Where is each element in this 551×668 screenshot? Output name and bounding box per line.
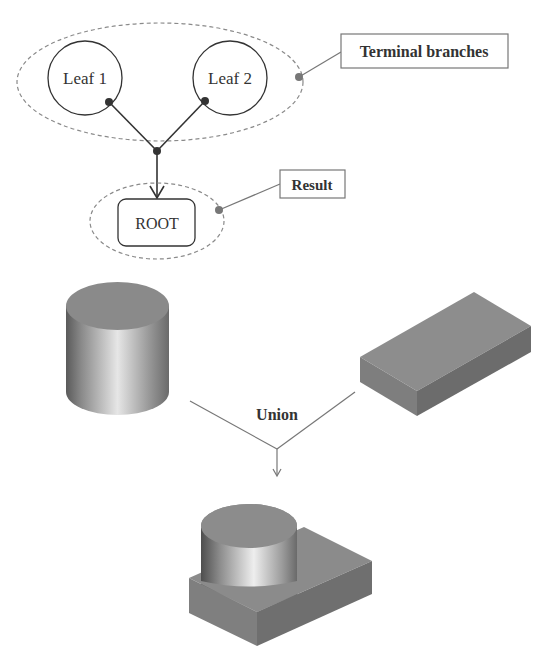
terminal-branches-label: Terminal branches (360, 43, 489, 60)
union-result-shape (189, 504, 372, 646)
union-connector: Union (190, 392, 355, 476)
leaf-2-label: Leaf 2 (208, 69, 252, 88)
result-leader (219, 184, 280, 210)
csg-tree-diagram: Leaf 1 Leaf 2 ROOT Terminal branches Res… (0, 0, 551, 668)
terminal-branches-leader (299, 52, 341, 77)
box-shape (360, 292, 531, 416)
root-label: ROOT (135, 215, 179, 232)
terminal-branches-callout: Terminal branches (295, 34, 508, 81)
terminal-branches-leader-dot (295, 73, 303, 81)
edge-leaf2-to-junction (157, 101, 205, 151)
result-label: Result (292, 177, 333, 193)
cylinder-shape (66, 282, 169, 415)
union-label: Union (256, 406, 298, 423)
leaf-2-port-dot (201, 97, 209, 105)
leaf-1-label: Leaf 1 (63, 69, 107, 88)
result-callout: Result (215, 170, 345, 214)
terminal-branches-group: Leaf 1 Leaf 2 (17, 23, 303, 141)
result-leader-dot (215, 206, 223, 214)
leaf-1-port-dot (105, 98, 113, 106)
edge-leaf1-to-junction (109, 102, 157, 151)
